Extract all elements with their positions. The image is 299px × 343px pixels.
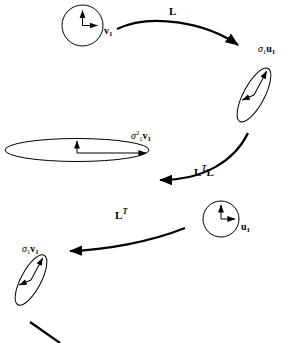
label-operator-L: L (169, 6, 177, 17)
label-operator-LTL: LTL (194, 165, 214, 178)
ellipse-sigma-v-group (9, 251, 53, 310)
label-v1: v1 (104, 26, 113, 36)
ellipse-sigma-squared-v-group (5, 139, 149, 162)
label-u1: u1 (241, 222, 250, 232)
arrow-LT-group (70, 228, 185, 251)
label-sigma1-squared-v1: σ21v1 (131, 126, 151, 142)
unit-circle-u-group (203, 201, 239, 237)
label-sigma1-u1: σ1u1 (258, 39, 275, 55)
ellipse-sigma-u-group (231, 64, 278, 127)
label-sigma1-v1: σ1v1 (22, 239, 39, 255)
unit-circle-v-group (62, 5, 103, 46)
label-operator-LT: LT (115, 208, 128, 221)
diagram-vector-layer (0, 0, 299, 343)
svd-diagram: v1 L σ1u1 σ21v1 LTL LT u1 σ1v1 (0, 0, 299, 343)
arrow-partial-cropped-group (30, 322, 60, 343)
arrow-L-group (117, 21, 238, 45)
